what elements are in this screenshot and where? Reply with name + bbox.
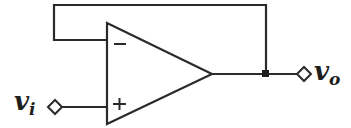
circuit-diagram (0, 0, 351, 128)
output-terminal-icon (297, 67, 311, 81)
input-terminal-icon (48, 100, 62, 114)
output-voltage-label: vo (314, 58, 340, 84)
noninverting-input-sign (113, 98, 126, 110)
junction-dot (262, 70, 269, 77)
input-voltage-label: vi (14, 88, 36, 114)
op-amp-symbol (107, 23, 212, 124)
feedback-wire (54, 5, 266, 73)
